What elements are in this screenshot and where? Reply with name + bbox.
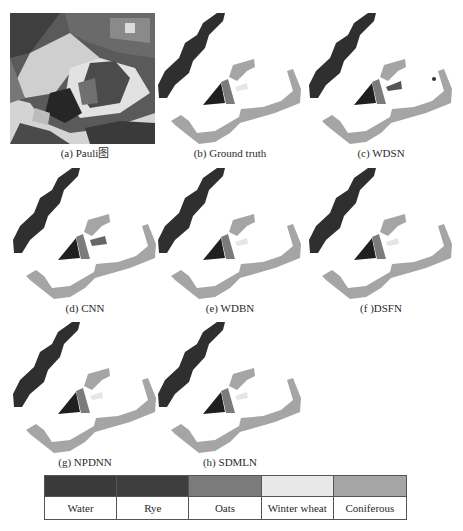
legend-label-water: Water [45,497,117,519]
legend-swatch-oats [189,476,261,497]
legend-label-coniferous: Coniferous [334,497,406,519]
legend-label-winter-wheat: Winter wheat [262,497,334,519]
wdbn-map-panel [155,168,305,303]
wdsn-map-panel [306,13,456,148]
cnn-map [10,168,160,303]
legend-swatch-rye [117,476,189,497]
legend-swatch-winter-wheat [262,476,334,497]
wdbn-map [155,168,305,303]
pauli-image-panel [10,13,160,148]
panel-caption-a: (a) Pauli图 [10,147,160,159]
sdmln-map [155,322,305,457]
pauli-image [10,13,160,148]
legend-label-oats: Oats [189,497,261,519]
legend-swatch-water [45,476,117,497]
panel-caption-d: (d) CNN [10,302,160,314]
panel-caption-e: (e) WDBN [155,302,305,314]
legend-swatch-coniferous [334,476,406,497]
npdnn-map-panel [10,322,160,457]
dsfn-map [306,168,456,303]
npdnn-map [10,322,160,457]
ground-truth-map-panel [155,13,305,148]
legend-label-rye: Rye [117,497,189,519]
cnn-map-panel [10,168,160,303]
wdsn-map [306,13,456,148]
panel-caption-b: (b) Ground truth [155,147,305,159]
panel-caption-g: (g) NPDNN [10,456,160,468]
dsfn-map-panel [306,168,456,303]
panel-caption-c: (c) WDSN [306,147,456,159]
sdmln-map-panel [155,322,305,457]
panel-caption-h: (h) SDMLN [155,456,305,468]
ground-truth-map [155,13,305,148]
class-legend: Water Rye Oats Winter wheat Coniferous [44,475,407,520]
panel-caption-f: (f )DSFN [306,302,456,314]
